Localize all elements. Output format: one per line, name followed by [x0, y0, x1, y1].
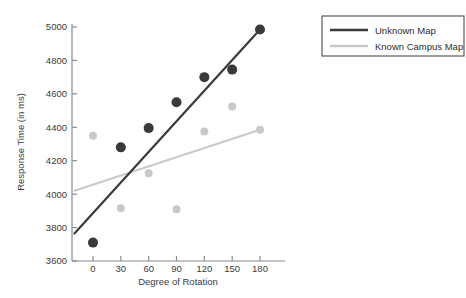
- scatter-plot-svg: 36003800400042004400460048005000 0306090…: [0, 0, 466, 298]
- x-tick-label: 30: [116, 263, 127, 274]
- data-point-known-campus-map: [256, 126, 264, 134]
- chart-legend: Unknown Map Known Campus Map: [322, 16, 464, 56]
- data-point-unknown-map: [144, 123, 154, 133]
- y-tick-label: 4000: [46, 189, 67, 200]
- data-point-unknown-map: [255, 25, 265, 35]
- y-tick-label: 4200: [46, 155, 67, 166]
- data-point-known-campus-map: [117, 204, 125, 212]
- data-point-unknown-map: [227, 65, 237, 75]
- data-point-known-campus-map: [173, 205, 181, 213]
- data-point-unknown-map: [199, 72, 209, 82]
- y-tick-label: 5000: [46, 21, 67, 32]
- data-point-unknown-map: [116, 142, 126, 152]
- data-point-unknown-map: [88, 238, 98, 248]
- chart-figure: 36003800400042004400460048005000 0306090…: [0, 0, 466, 298]
- data-point-known-campus-map: [200, 127, 208, 135]
- y-tick-label: 3800: [46, 222, 67, 233]
- data-point-known-campus-map: [89, 132, 97, 140]
- x-axis-title: Degree of Rotation: [138, 276, 218, 287]
- x-tick-label: 90: [171, 263, 182, 274]
- x-tick-label: 180: [252, 263, 268, 274]
- y-tick-label: 3600: [46, 255, 67, 266]
- legend-label-unknown-map: Unknown Map: [375, 25, 436, 36]
- y-tick-label: 4600: [46, 88, 67, 99]
- legend-label-known-campus-map: Known Campus Map: [375, 41, 463, 52]
- y-tick-label: 4400: [46, 122, 67, 133]
- x-tick-label: 150: [224, 263, 240, 274]
- y-tick-label: 4800: [46, 55, 67, 66]
- x-tick-label: 60: [143, 263, 154, 274]
- data-point-known-campus-map: [228, 102, 236, 110]
- x-tick-label: 120: [196, 263, 212, 274]
- y-axis-title: Response Time (in ms): [15, 93, 26, 191]
- data-point-known-campus-map: [145, 169, 153, 177]
- data-point-unknown-map: [172, 97, 182, 107]
- x-tick-label: 0: [90, 263, 95, 274]
